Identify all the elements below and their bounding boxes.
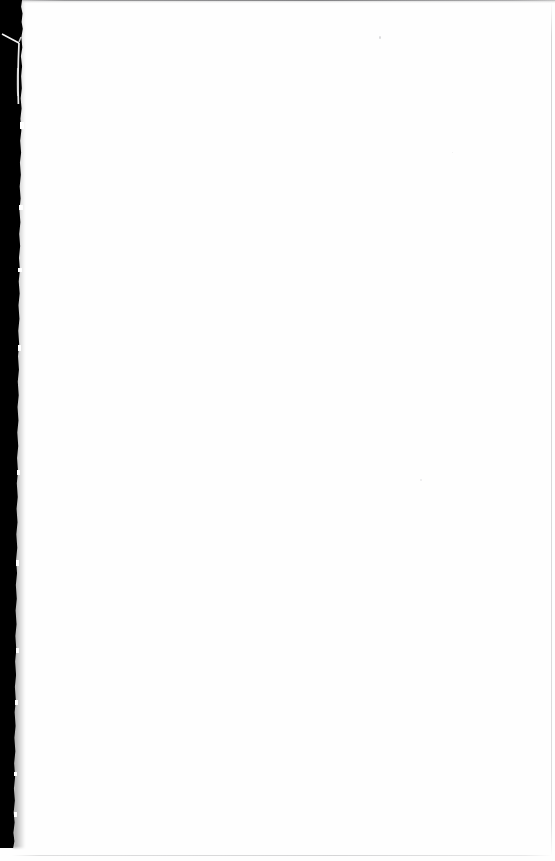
dust-speck: [420, 479, 422, 481]
right-edge-rule: [551, 2, 552, 856]
gutter-notch: [18, 268, 22, 272]
gutter-notch: [14, 812, 17, 817]
dust-speck: [379, 36, 381, 39]
gutter-notch: [18, 345, 21, 351]
gutter-notch: [17, 470, 20, 475]
gutter-notch: [19, 205, 23, 210]
dust-speck: [452, 152, 453, 153]
gutter-notch: [16, 648, 19, 653]
top-edge-shadow: [22, 0, 555, 3]
gutter-notch: [15, 700, 18, 705]
bottom-edge-rule: [12, 855, 552, 856]
gutter-notch: [14, 772, 17, 776]
page-body-text: [40, 40, 520, 810]
gutter-notch: [20, 122, 24, 129]
scanned-page: [0, 0, 555, 861]
gutter-notch: [16, 560, 19, 566]
